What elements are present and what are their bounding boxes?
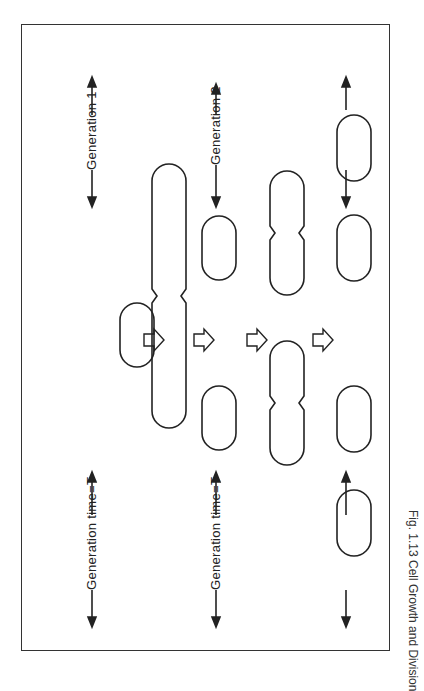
figure-caption: Fig. 1.13 Cell Growth and Division [406,510,420,691]
label-generation-time-2: Generation time=T [208,477,223,590]
cell-dividing-gen2-a [270,171,304,295]
cell-dividing-gen1 [152,164,186,428]
cell-gen2-1 [337,115,371,181]
process-arrows [144,329,333,351]
label-generation-time-1: Generation time=T [84,477,99,590]
cell-gen2-3 [337,386,371,452]
cell-dividing-gen2-b [270,341,304,465]
label-generation-1: Generation 1 [84,91,99,170]
cell-gen2-4 [337,490,371,556]
cell-daughter-2 [202,386,236,450]
cell-daughter-1 [202,216,236,280]
cell-gen2-2 [337,215,371,281]
label-generation-2: Generation 2 [208,86,223,165]
cell-initial [120,303,154,367]
